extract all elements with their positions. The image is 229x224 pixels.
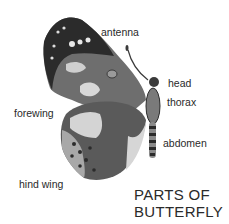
hind-wing-shape xyxy=(61,102,146,180)
label-antenna: antenna xyxy=(101,27,139,38)
label-abdomen: abdomen xyxy=(163,138,207,149)
label-thorax: thorax xyxy=(167,97,196,108)
butterfly-diagram: antenna head thorax forewing abdomen hin… xyxy=(0,0,229,224)
label-hind-wing: hind wing xyxy=(19,179,63,190)
title-line-1: PARTS OF xyxy=(134,186,223,203)
title-line-2: BUTTERFLY xyxy=(134,203,223,220)
label-head: head xyxy=(168,78,191,89)
label-forewing: forewing xyxy=(14,108,54,119)
body-shape xyxy=(146,77,160,158)
diagram-title: PARTS OF BUTTERFLY xyxy=(134,186,223,220)
